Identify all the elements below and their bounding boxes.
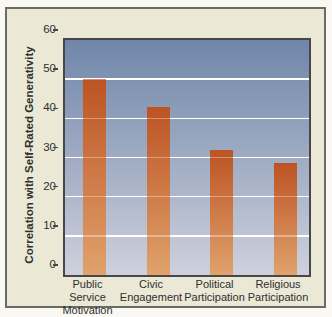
plot-area	[63, 38, 311, 277]
y-tick-label-30: 30	[27, 141, 56, 153]
bar-political-participation	[210, 150, 233, 275]
y-tick-label-40: 40	[27, 101, 56, 113]
y-tick-mark-40	[53, 108, 58, 110]
y-tick-label-20: 20	[27, 180, 56, 192]
bar-civic-engagement	[147, 107, 170, 275]
y-tick-mark-30	[53, 147, 58, 149]
gridline-overlay-20	[65, 196, 309, 198]
figure-panel: Correlation with Self-Rated Generativity…	[5, 7, 326, 308]
y-tick-mark-50	[53, 68, 58, 70]
gridline-overlay-40	[65, 118, 309, 120]
screenshot-root: Correlation with Self-Rated Generativity…	[0, 0, 332, 317]
gridline-overlay-10	[65, 235, 309, 237]
y-tick-label-50: 50	[27, 62, 56, 74]
y-tick-mark-0	[53, 264, 58, 266]
y-tick-label-60: 60	[27, 23, 56, 35]
gridline-overlay-50	[65, 78, 309, 80]
gridline-overlay-30	[65, 157, 309, 159]
bar-public-service-motivation	[83, 79, 106, 275]
y-tick-mark-20	[53, 186, 58, 188]
y-tick-label-10: 10	[27, 219, 56, 231]
y-tick-mark-60	[53, 29, 58, 31]
y-axis-title: Correlation with Self-Rated Generativity	[23, 46, 35, 263]
y-tick-mark-10	[53, 225, 58, 227]
bar-religious-participation	[274, 163, 297, 275]
y-tick-label-0: 0	[27, 258, 56, 270]
x-label-religious-participation: Religious Participation	[240, 278, 316, 304]
